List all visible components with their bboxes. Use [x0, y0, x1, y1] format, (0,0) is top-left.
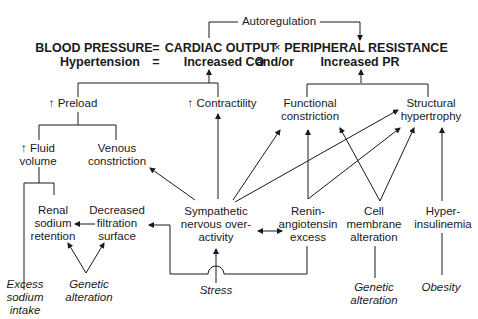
fluid-volume-node: ↑ Fluid volume: [19, 142, 56, 168]
blood-pressure-label: BLOOD PRESSURE: [35, 41, 152, 55]
hyperinsulinemia-node: Hyper- insulinemia: [414, 205, 472, 231]
venous-constriction-node: Venous constriction: [88, 142, 146, 168]
structural-hypertrophy-node: Structural hypertrophy: [401, 97, 462, 123]
renal-sodium-retention-node: Renal sodium retention: [31, 204, 76, 243]
stress-cause: Stress: [200, 284, 233, 297]
contractility-node: ↑ Contractility: [187, 97, 256, 110]
obesity-cause: Obesity: [422, 281, 461, 294]
renin-angiotensin-node: Renin- angiotensin excess: [279, 205, 338, 244]
genetic-alteration-right-cause: Genetic alteration: [350, 281, 397, 307]
peripheral-resistance-label: PERIPHERAL RESISTANCE: [284, 41, 447, 55]
hypertension-label: Hypertension: [60, 55, 140, 69]
decreased-filtration-surface-node: Decreased filtration surface: [89, 204, 145, 243]
increased-co-label: Increased CO: [184, 55, 265, 69]
functional-constriction-node: Functional constriction: [281, 97, 339, 123]
cell-membrane-node: Cell membrane alteration: [347, 205, 402, 244]
equals-sign-2: =: [152, 55, 159, 69]
and-or-label: and/or: [256, 55, 294, 69]
cardiac-output-label: CARDIAC OUTPUT: [165, 41, 278, 55]
sympathetic-overactivity-node: Sympathetic nervous over- activity: [181, 205, 251, 244]
increased-pr-label: Increased PR: [320, 55, 399, 69]
autoregulation-label: Autoregulation: [242, 15, 316, 28]
excess-sodium-cause: Excess sodium intake: [6, 278, 43, 317]
times-sign: ×: [274, 41, 281, 54]
genetic-alteration-left-cause: Genetic alteration: [65, 278, 112, 304]
preload-node: ↑ Preload: [49, 97, 98, 110]
hypertension-pathophysiology-diagram: Autoregulation BLOOD PRESSURE = CARDIAC …: [0, 0, 478, 319]
equals-sign-1: =: [152, 41, 159, 55]
